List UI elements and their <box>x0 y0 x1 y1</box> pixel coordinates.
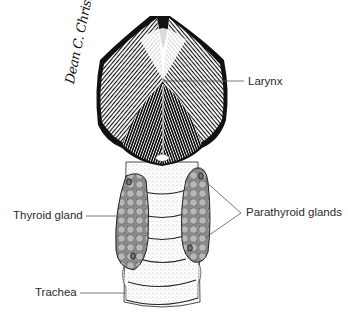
larynx <box>96 16 227 166</box>
parathyroid-right-inferior <box>188 245 193 251</box>
anatomy-illustration <box>0 0 348 318</box>
parathyroid-left-superior <box>127 179 132 185</box>
thyroid-lobe-left <box>116 174 149 270</box>
label-larynx: Larynx <box>248 76 283 88</box>
parathyroid-left-inferior <box>131 253 136 259</box>
parathyroid-leader <box>205 181 241 238</box>
label-thyroid-gland: Thyroid gland <box>13 210 83 222</box>
label-trachea: Trachea <box>35 287 77 299</box>
label-parathyroid-glands: Parathyroid glands <box>246 207 342 219</box>
parathyroid-right-superior <box>199 173 204 179</box>
